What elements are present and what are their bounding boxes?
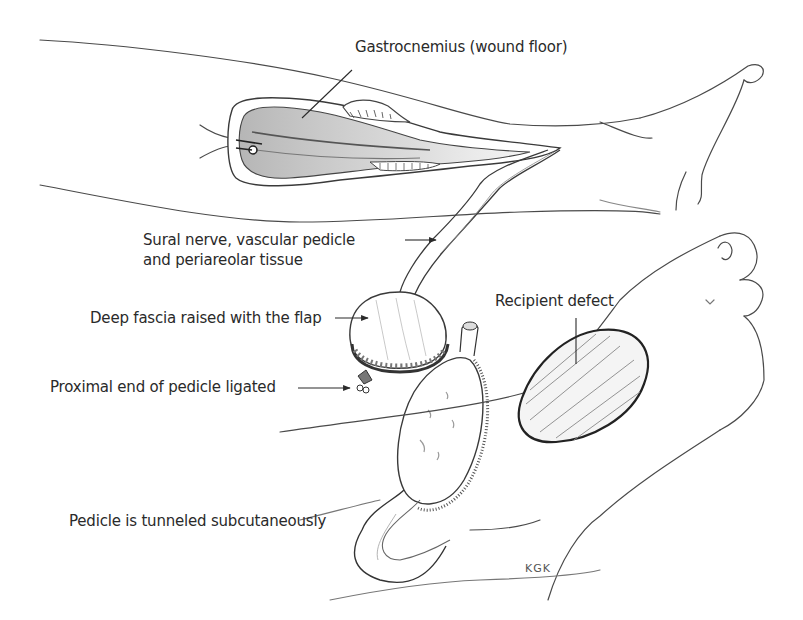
label-tunneled: Pedicle is tunneled subcutaneously [69,512,326,531]
sural-flap-illustration: Gastrocnemius (wound floor) Sural nerve,… [0,0,803,620]
label-deep-fascia: Deep fascia raised with the flap [90,309,322,328]
label-sural-nerve-line2: and periareolar tissue [143,251,303,270]
label-gastrocnemius: Gastrocnemius (wound floor) [355,38,567,57]
donor-wound [228,98,560,186]
label-proximal-end: Proximal end of pedicle ligated [50,378,276,397]
artist-signature: KGK [525,562,551,575]
label-sural-nerve-line1: Sural nerve, vascular pedicle [143,231,355,250]
recipient-defect [519,330,648,443]
label-recipient-defect: Recipient defect [495,292,614,311]
